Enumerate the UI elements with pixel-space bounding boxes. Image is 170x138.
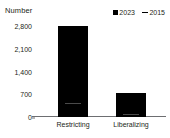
legend-label-2015: 2015 [149,9,165,16]
y-tick-0: 0 [28,114,32,121]
bar-restricting-2023[interactable] [58,26,88,117]
y-tick-label: 2,100 [14,45,32,52]
legend-line-icon [142,12,148,14]
plot-area: 2,800 2,100 1,400 700 0 Restricting Libe… [36,26,164,117]
y-tick-2800: 2,800 [14,23,32,30]
legend-label-2023: 2023 [119,9,135,16]
legend-square-icon [113,10,118,15]
legend-item-2023[interactable]: 2023 [113,9,135,16]
marker-liberalizing-2015 [123,114,140,115]
y-tick-700: 700 [20,91,32,98]
y-tick-1400: 1,400 [14,68,32,75]
bar-group-liberalizing[interactable]: Liberalizing [116,26,146,117]
y-tick-label: 700 [20,91,32,98]
y-tick-2100: 2,100 [14,45,32,52]
y-tick-label: 1,400 [14,68,32,75]
bar-liberalizing-2023[interactable] [116,93,146,117]
x-label-restricting: Restricting [56,121,89,128]
bar-group-restricting[interactable]: Restricting [58,26,88,117]
marker-restricting-2015 [65,103,82,104]
x-label-liberalizing: Liberalizing [113,121,148,128]
chart-legend: 2023 2015 [113,9,165,16]
y-axis-title: Number [5,6,32,15]
y-tick-mark [32,117,35,118]
legend-item-2015[interactable]: 2015 [142,9,165,16]
y-tick-label: 2,800 [14,23,32,30]
bar-chart: Number 2023 2015 2,800 2,100 1,400 700 0 [0,0,170,138]
